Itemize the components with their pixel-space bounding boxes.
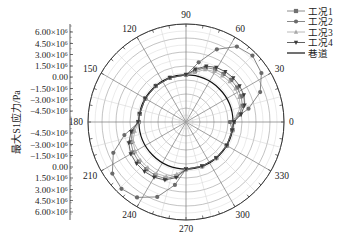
radial-tick-label: 0.00 — [52, 162, 68, 172]
outer-tick — [152, 30, 153, 33]
radial-tick-label: −3.00×10⁶ — [30, 95, 68, 105]
legend: 工况1工况2工况3工况4巷道 — [287, 7, 333, 59]
radial-tick-label: 1.50×10⁶ — [35, 61, 68, 71]
angle-label-270: 270 — [179, 224, 194, 234]
grid-spoke — [117, 53, 186, 122]
legend-label: 工况2 — [308, 17, 333, 27]
outer-tick — [234, 37, 236, 40]
outer-tick — [169, 25, 170, 28]
radial-tick-label: −4.50×10⁶ — [30, 106, 68, 116]
outer-tick — [202, 216, 203, 219]
outer-tick — [123, 195, 125, 197]
outer-tick — [111, 183, 113, 185]
circle-marker — [111, 151, 115, 155]
outer-tick — [268, 73, 271, 75]
grid-spoke — [137, 37, 186, 122]
outer-tick — [169, 216, 170, 219]
legend-label: 工况1 — [308, 7, 333, 17]
outer-tick — [259, 183, 261, 185]
radial-tick-label: 6.00×10⁶ — [35, 207, 68, 217]
outer-tick — [280, 105, 283, 106]
outer-tick — [202, 25, 203, 28]
outer-tick — [259, 59, 261, 61]
polar-chart: 0306090120150180210240270300330 6.00×10⁶… — [0, 0, 343, 243]
legend-item: 工况3 — [287, 28, 333, 38]
outer-tick — [94, 154, 97, 155]
polar-grid — [88, 24, 284, 220]
angle-label-210: 210 — [83, 171, 98, 181]
angle-label-0: 0 — [289, 117, 294, 127]
outer-tick — [268, 170, 271, 172]
outer-tick — [218, 211, 219, 214]
legend-label: 工况3 — [308, 28, 333, 38]
radial-tick-label: −1.50×10⁶ — [30, 84, 68, 94]
circle-marker — [215, 47, 219, 51]
outer-tick — [123, 47, 125, 49]
radial-tick-label: 1.50×10⁶ — [35, 173, 68, 183]
outer-tick — [111, 59, 113, 61]
outer-tick — [137, 37, 139, 40]
outer-tick — [101, 170, 104, 172]
legend-item: 工况4 — [287, 38, 333, 48]
outer-tick — [275, 154, 278, 155]
angle-label-60: 60 — [236, 24, 246, 34]
outer-tick — [89, 105, 92, 106]
angle-label-300: 300 — [236, 210, 251, 220]
outer-tick — [152, 211, 153, 214]
radial-tick-label: 3.00×10⁶ — [35, 185, 68, 195]
radial-tick-label: 3.00×10⁶ — [35, 50, 68, 60]
outer-tick — [89, 138, 92, 139]
legend-label: 工况4 — [308, 38, 333, 48]
angle-label-30: 30 — [275, 64, 285, 74]
radial-axis: 6.00×10⁶4.50×10⁶3.00×10⁶1.50×10⁶0.00−1.5… — [30, 24, 73, 220]
legend-item: 工况2 — [287, 17, 333, 27]
radial-tick-label: −1.50×10⁶ — [30, 151, 68, 161]
outer-tick — [280, 138, 283, 139]
outer-tick — [275, 88, 278, 89]
angle-label-240: 240 — [122, 210, 137, 220]
triangle-down-marker — [142, 170, 146, 174]
legend-item: 巷道 — [287, 48, 328, 59]
outer-tick — [101, 73, 104, 75]
radial-tick-label: −3.00×10⁶ — [30, 140, 68, 150]
angle-label-330: 330 — [275, 171, 290, 181]
circle-marker — [155, 195, 159, 199]
angle-label-180: 180 — [69, 117, 84, 127]
radial-tick-label: 4.50×10⁶ — [35, 39, 68, 49]
legend-label: 巷道 — [308, 48, 328, 59]
outer-tick — [247, 47, 249, 49]
circle-marker — [197, 60, 201, 64]
angle-label-120: 120 — [122, 24, 137, 34]
circle-marker — [110, 171, 114, 175]
circle-marker — [246, 107, 250, 111]
angle-label-90: 90 — [181, 10, 191, 20]
circle-marker — [258, 90, 262, 94]
circle-marker — [259, 71, 263, 75]
radial-axis-title: 最大S1应力/Pa — [10, 90, 22, 154]
grid-spoke — [186, 122, 235, 207]
circle-marker — [250, 53, 254, 57]
radial-tick-label: 0.00 — [52, 72, 68, 82]
radial-tick-label: −4.50×10⁶ — [30, 128, 68, 138]
outer-tick — [247, 195, 249, 197]
outer-tick — [218, 30, 219, 33]
circle-marker — [173, 183, 177, 187]
radial-tick-label: 4.50×10⁶ — [35, 196, 68, 206]
legend-item: 工况1 — [287, 7, 333, 17]
circle-marker — [122, 133, 126, 137]
outer-tick — [234, 204, 236, 207]
grid-spoke — [186, 122, 255, 191]
circle-marker — [135, 195, 139, 199]
outer-tick — [94, 88, 97, 89]
circle-marker — [235, 44, 239, 48]
outer-tick — [137, 204, 139, 207]
triangle-down-marker — [294, 41, 298, 45]
square-marker — [294, 9, 298, 13]
radial-tick-label: 6.00×10⁶ — [35, 27, 68, 37]
angle-label-150: 150 — [83, 64, 98, 74]
circle-marker — [119, 187, 123, 191]
circle-marker — [294, 19, 298, 23]
